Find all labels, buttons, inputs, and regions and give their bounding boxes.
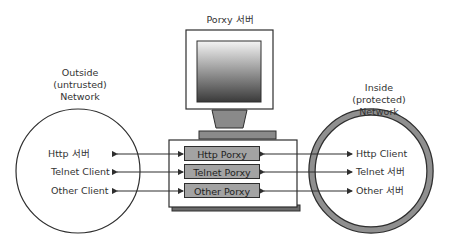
inside-item-telnet: Telnet 서버 [356, 166, 405, 178]
proxy-box-other: Other Porxy [184, 183, 260, 198]
outside-title-line-1: Outside [45, 67, 115, 79]
proxy-box-http: Http Porxy [184, 146, 260, 161]
proxy-server-title: Porxy 서버 [195, 14, 265, 26]
outside-item-telnet: Telnet Client [51, 166, 110, 178]
outside-item-other: Other Client [51, 185, 109, 197]
outside-item-http: Http 서버 [48, 148, 90, 160]
inside-item-http: Http Client [356, 148, 407, 160]
monitor-neck [212, 110, 247, 128]
outside-title-line-3: Network [45, 91, 115, 103]
outside-title-line-2: (untrusted) [45, 79, 115, 91]
proxy-box-telnet: Telnet Porxy [184, 164, 260, 179]
diagram-canvas [0, 0, 450, 251]
inside-title-line-1: Inside [344, 82, 414, 94]
monitor-stand [199, 131, 276, 139]
inside-title-line-3: Network [344, 106, 414, 118]
inside-item-other: Other 서버 [356, 185, 404, 197]
inside-title-line-2: (protected) [344, 94, 414, 106]
